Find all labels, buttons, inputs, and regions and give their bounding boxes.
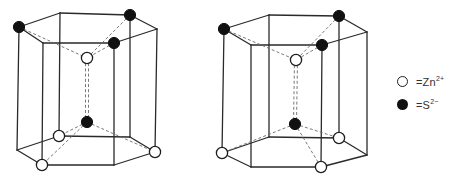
zn-ion-open-circle-icon [216, 147, 227, 158]
s-ion-filled-circle-icon [333, 10, 344, 21]
top-edge [114, 29, 157, 43]
top-edge [269, 15, 339, 16]
s-ion-filled-circle-icon [316, 39, 327, 50]
bond-line [42, 122, 87, 165]
s-ion-filled-circle-icon [108, 37, 119, 48]
zn-ion-open-circle-icon [315, 161, 326, 172]
bottom-edge [17, 136, 59, 150]
legend-item-s: =S2− [393, 93, 460, 116]
bottom-edge [222, 137, 269, 153]
s-ion-filled-circle-icon [81, 116, 92, 127]
s-ion-filled-circle-icon [13, 21, 24, 32]
bottom-edge [59, 136, 130, 137]
filled-circle-icon [397, 99, 408, 110]
vertical-edge [42, 43, 43, 165]
s-ion-filled-circle-icon [289, 118, 300, 129]
top-edge [60, 13, 130, 15]
vertical-edge [59, 13, 60, 136]
zn-ion-open-circle-icon [36, 159, 47, 170]
bond-line [297, 60, 298, 124]
open-circle-icon [397, 76, 408, 87]
legend-label-s: =S2− [416, 98, 439, 111]
bond-line [295, 124, 339, 138]
bottom-edge [321, 155, 367, 167]
top-edge [19, 13, 60, 27]
bond-line [294, 60, 295, 124]
bottom-edge [269, 137, 339, 138]
top-edge [322, 32, 367, 45]
prism-right [216, 10, 367, 172]
atoms [13, 9, 160, 170]
top-edge [224, 15, 269, 29]
zn-ion-open-circle-icon [290, 54, 301, 65]
legend-label-zn: =Zn2+ [416, 75, 444, 88]
wurtzite-unit-cell-diagram [0, 0, 460, 181]
zn-ion-open-circle-icon [149, 146, 160, 157]
legend-item-zn: =Zn2+ [393, 70, 460, 93]
zn-ion-open-circle-icon [333, 132, 344, 143]
s-ion-filled-circle-icon [218, 23, 229, 34]
legend: =Zn2+ =S2− [393, 70, 460, 116]
vertical-edge [321, 45, 322, 167]
bond-line [87, 15, 130, 58]
bond-line [295, 124, 321, 167]
bond-line [296, 16, 339, 60]
s-ion-filled-circle-icon [124, 9, 135, 20]
vertical-edge [17, 27, 19, 150]
zn-ion-open-circle-icon [81, 52, 92, 63]
vertical-edge [155, 29, 157, 152]
bottom-edge [114, 152, 155, 165]
prism-left [13, 9, 160, 170]
zn-ion-open-circle-icon [53, 130, 64, 141]
vertical-edge [222, 29, 224, 153]
